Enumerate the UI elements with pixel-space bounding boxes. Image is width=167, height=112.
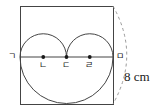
figure-canvas: [0, 0, 167, 112]
point-marker-r: [88, 55, 92, 59]
right-semicircle: [67, 34, 114, 57]
vertex-label-m: ㅁ: [116, 52, 124, 61]
vertex-label-d: ㄷ: [62, 61, 70, 70]
vertex-label-g: ㄱ: [8, 52, 16, 61]
side-length-label: 8 cm: [124, 70, 150, 83]
left-semicircle: [20, 34, 67, 57]
vertex-label-n: ㄴ: [39, 61, 47, 70]
point-marker-n: [41, 55, 45, 59]
vertex-label-r: ㄹ: [85, 61, 93, 70]
point-marker-d: [65, 55, 69, 59]
geometry-figure: ㄱ ㄴ ㄷ ㄹ ㅁ 8 cm: [0, 0, 167, 112]
